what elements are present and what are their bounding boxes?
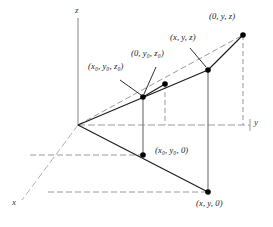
axis-label-x: x: [12, 198, 16, 207]
axes-group: [22, 18, 250, 200]
construction-lines-group: [30, 35, 243, 192]
x-axis-line: [22, 125, 78, 200]
coordinate-diagram: (x₀, y₀, z₀) (0, y₀, z₀) (x, y, z) (0, y…: [0, 0, 273, 227]
marker-0-y0-z0: [162, 81, 168, 87]
leader-x0y0z0: [120, 80, 141, 95]
marker-x0-y0-z0: [140, 94, 146, 100]
label-x-y-z: (x, y, z): [170, 33, 196, 42]
marker-x-y-0: [205, 189, 211, 195]
leader-xyz: [190, 48, 206, 67]
label-x0-y0-z0: (x₀, y₀, z₀): [88, 62, 123, 71]
label-x0-y0-0: (x₀, y₀, 0): [155, 146, 188, 155]
axis-label-z: z: [75, 6, 79, 15]
solid-lines-group: [78, 35, 243, 192]
marker-0-y-z: [240, 32, 246, 38]
label-x-y-0: (x, y, 0): [196, 199, 223, 208]
line-xyz-to-0yz: [208, 35, 243, 70]
label-0-y-z: (0, y, z): [209, 12, 235, 21]
diagram-canvas: [0, 0, 273, 227]
marker-x-y-z: [205, 67, 211, 73]
marker-x0-y0-0: [140, 152, 146, 158]
label-0-y0-z0: (0, y₀, z₀): [131, 49, 164, 58]
line-x0y0z0-to-0y0z0: [143, 84, 165, 97]
axis-label-y: y: [254, 118, 258, 127]
